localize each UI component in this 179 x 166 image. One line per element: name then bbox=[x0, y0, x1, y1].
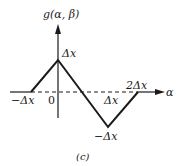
diagram-canvas: g(α, β) α Δx −Δx 0 Δx 2Δx −Δx (c) bbox=[0, 0, 179, 166]
x-axis-label: α bbox=[166, 86, 174, 99]
x-axis-arrow-icon bbox=[155, 89, 165, 95]
y-axis-arrow-icon bbox=[55, 24, 61, 34]
tick-origin: 0 bbox=[48, 94, 55, 107]
trough-label: −Δx bbox=[94, 130, 118, 143]
tick-two-dx: 2Δx bbox=[125, 79, 148, 92]
tick-neg-dx: −Δx bbox=[11, 94, 35, 107]
peak-label: Δx bbox=[61, 47, 77, 60]
caption: (c) bbox=[76, 151, 90, 162]
tick-dx: Δx bbox=[103, 94, 119, 107]
y-axis-label: g(α, β) bbox=[43, 8, 79, 21]
